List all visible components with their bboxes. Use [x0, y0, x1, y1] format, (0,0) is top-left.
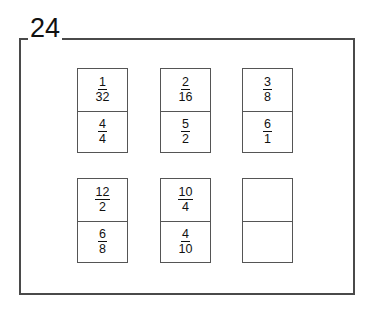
fraction-denominator: 32: [95, 90, 111, 104]
fraction-card-empty[interactable]: [242, 178, 293, 263]
fraction-card[interactable]: 3 8 6 1: [242, 68, 293, 153]
card-cell-top[interactable]: [243, 179, 292, 221]
card-cell-bottom[interactable]: 4 4: [78, 111, 127, 153]
card-cell-top[interactable]: 1 32: [78, 69, 127, 111]
fraction-denominator: 2: [98, 200, 107, 214]
card-cell-top[interactable]: 2 16: [161, 69, 210, 111]
fraction-numerator: 4: [98, 118, 107, 133]
fraction-numerator: 12: [95, 186, 111, 201]
fraction: 3 8: [263, 76, 272, 104]
fraction-numerator: 6: [98, 228, 107, 243]
card-cell-bottom[interactable]: 6 1: [243, 111, 292, 153]
card-cell-bottom[interactable]: [243, 221, 292, 263]
exercise-number: 24: [28, 13, 62, 43]
card-row: 1 32 4 4 2 16 5 2: [77, 68, 293, 153]
fraction-denominator: 10: [178, 242, 194, 256]
fraction: 6 8: [98, 228, 107, 256]
fraction-numerator: 5: [181, 118, 190, 133]
fraction-denominator: 4: [181, 200, 190, 214]
fraction: 4 10: [178, 228, 194, 256]
card-cell-bottom[interactable]: 4 10: [161, 221, 210, 263]
fraction-denominator: 8: [98, 242, 107, 256]
fraction-numerator: 10: [178, 186, 194, 201]
fraction-denominator: 8: [263, 90, 272, 104]
fraction-card[interactable]: 12 2 6 8: [77, 178, 128, 263]
fraction-card-grid: 1 32 4 4 2 16 5 2: [77, 68, 293, 258]
fraction: 2 16: [178, 76, 194, 104]
fraction-denominator: 2: [181, 132, 190, 146]
fraction-numerator: 1: [98, 76, 107, 91]
card-cell-top[interactable]: 12 2: [78, 179, 127, 221]
fraction-denominator: 1: [263, 132, 272, 146]
fraction-numerator: 6: [263, 118, 272, 133]
fraction-numerator: 3: [263, 76, 272, 91]
fraction-numerator: 4: [181, 228, 190, 243]
fraction: 6 1: [263, 118, 272, 146]
fraction: 5 2: [181, 118, 190, 146]
fraction: 4 4: [98, 118, 107, 146]
fraction: 1 32: [95, 76, 111, 104]
fraction-denominator: 4: [98, 132, 107, 146]
fraction-numerator: 2: [181, 76, 190, 91]
fraction-card[interactable]: 10 4 4 10: [160, 178, 211, 263]
card-row: 12 2 6 8 10 4 4 10: [77, 178, 293, 263]
fraction-card[interactable]: 1 32 4 4: [77, 68, 128, 153]
fraction-denominator: 16: [178, 90, 194, 104]
fraction: 10 4: [178, 186, 194, 214]
card-cell-bottom[interactable]: 5 2: [161, 111, 210, 153]
fraction: 12 2: [95, 186, 111, 214]
card-cell-bottom[interactable]: 6 8: [78, 221, 127, 263]
card-cell-top[interactable]: 10 4: [161, 179, 210, 221]
fraction-card[interactable]: 2 16 5 2: [160, 68, 211, 153]
card-cell-top[interactable]: 3 8: [243, 69, 292, 111]
